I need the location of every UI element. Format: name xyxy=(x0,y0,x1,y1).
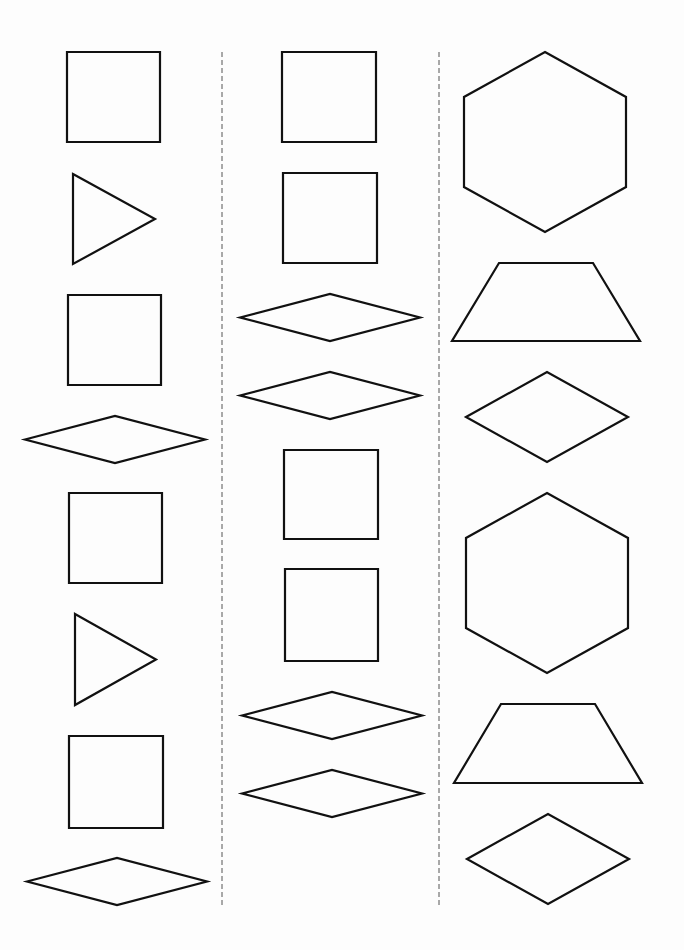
square-shape xyxy=(68,295,161,385)
square-shape xyxy=(283,173,377,263)
rhombus-shape xyxy=(240,372,420,419)
column-right xyxy=(452,52,642,904)
square-shape xyxy=(285,569,378,661)
rhombus-shape xyxy=(240,294,420,341)
worksheet xyxy=(0,0,684,950)
trapezoid-shape xyxy=(452,263,640,341)
column-left xyxy=(25,52,207,905)
column-middle xyxy=(240,52,422,817)
rhombus-shape xyxy=(242,770,422,817)
rhombus-shape xyxy=(25,416,205,463)
rhombus-shape xyxy=(466,372,628,462)
square-shape xyxy=(67,52,160,142)
column-dividers xyxy=(222,52,439,905)
square-shape xyxy=(282,52,376,142)
trapezoid-shape xyxy=(454,704,642,783)
triangle-shape xyxy=(75,614,156,705)
triangle-shape xyxy=(73,174,155,264)
rhombus-shape xyxy=(27,858,207,905)
square-shape xyxy=(284,450,378,539)
hexagon-shape xyxy=(464,52,626,232)
rhombus-shape xyxy=(242,692,422,739)
square-shape xyxy=(69,736,163,828)
rhombus-shape xyxy=(467,814,629,904)
square-shape xyxy=(69,493,162,583)
hexagon-shape xyxy=(466,493,628,673)
